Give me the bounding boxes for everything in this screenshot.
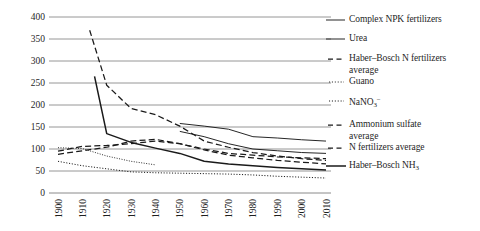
- y-tick-label: 350: [31, 34, 46, 44]
- legend-item[interactable]: Urea: [326, 33, 480, 44]
- legend-swatch-icon: [326, 33, 346, 44]
- x-tick-label: 1950: [175, 199, 185, 218]
- y-tick-label: 0: [40, 188, 45, 198]
- x-tick-label: 1980: [248, 199, 258, 218]
- data-series-group: [58, 30, 326, 178]
- y-tick-label: 50: [36, 166, 46, 176]
- legend-item[interactable]: Haber–Bosch N fertilizers: [326, 53, 480, 64]
- y-tick-label: 100: [31, 144, 46, 154]
- chart-figure: 400350300250200150100500 190019101920193…: [0, 0, 480, 231]
- x-tick-label: 1930: [127, 199, 137, 218]
- series-line: [180, 131, 326, 153]
- y-tick-label: 400: [31, 12, 46, 22]
- y-tick-label: 200: [31, 100, 46, 110]
- legend-item-label: NaNO3−: [349, 95, 381, 111]
- chart-legend: Complex NPK fertilizersUreaHaber–Bosch N…: [326, 14, 480, 175]
- x-tick-label: 1900: [54, 199, 64, 218]
- series-line: [58, 148, 155, 165]
- x-tick-label: 1960: [200, 199, 210, 218]
- legend-item-label: Haber–Bosch N fertilizers: [349, 53, 446, 64]
- legend-item-label: Complex NPK fertilizers: [349, 14, 442, 25]
- legend-swatch-icon: [326, 14, 346, 25]
- x-tick-label: 2000: [297, 199, 307, 218]
- x-tick-label: 1990: [273, 199, 283, 218]
- y-axis-tick-labels: 400350300250200150100500: [31, 12, 46, 198]
- legend-swatch-icon: [326, 53, 346, 64]
- legend-item-label: Guano: [349, 76, 374, 87]
- legend-swatch-icon: [326, 76, 346, 87]
- legend-item[interactable]: NaNO3−: [326, 95, 480, 111]
- x-tick-label: 1920: [102, 199, 112, 218]
- legend-swatch-icon: [326, 142, 346, 153]
- legend-item-label: Ammonium sulfate: [349, 119, 421, 130]
- series-line: [95, 76, 326, 170]
- series-line: [180, 123, 326, 141]
- x-tick-label: 2010: [322, 199, 332, 218]
- y-tick-label: 150: [31, 122, 46, 132]
- x-tick-label: 1940: [151, 199, 161, 218]
- legend-item-label: N fertilizers average: [349, 142, 424, 153]
- y-tick-label: 300: [31, 56, 46, 66]
- series-line: [58, 161, 326, 178]
- x-axis-tick-labels: 1900191019201930194019501960197019801990…: [54, 199, 332, 218]
- legend-item-label-continued: average: [349, 131, 480, 142]
- legend-swatch-icon: [326, 95, 346, 106]
- legend-swatch-icon: [326, 160, 346, 171]
- legend-swatch-icon: [326, 119, 346, 130]
- legend-item[interactable]: Haber–Bosch NH3: [326, 160, 480, 174]
- y-tick-label: 250: [31, 78, 46, 88]
- series-line: [58, 141, 326, 159]
- legend-item[interactable]: Complex NPK fertilizers: [326, 14, 480, 25]
- x-tick-label: 1970: [224, 199, 234, 218]
- legend-item[interactable]: Guano: [326, 76, 480, 87]
- legend-item-label: Haber–Bosch NH3: [349, 160, 419, 174]
- legend-item-label: Urea: [349, 33, 367, 44]
- legend-item-label-continued: average: [349, 65, 480, 76]
- legend-item[interactable]: N fertilizers average: [326, 142, 480, 153]
- x-tick-label: 1910: [78, 199, 88, 218]
- legend-item[interactable]: Ammonium sulfate: [326, 119, 480, 130]
